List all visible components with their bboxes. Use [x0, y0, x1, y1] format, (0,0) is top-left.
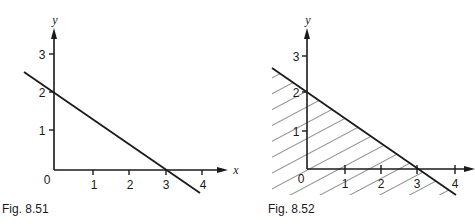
x-tick-label: 3: [163, 178, 170, 192]
x-tick-label: 2: [127, 178, 134, 192]
origin-label: 0: [44, 173, 51, 187]
x-axis-label: x: [232, 163, 239, 177]
figure-caption: Fig. 8.51: [2, 202, 49, 216]
y-tick-label: 3: [293, 50, 300, 64]
y-axis-label: y: [304, 13, 311, 27]
y-tick-label: 1: [39, 124, 46, 138]
figure-8-52: 1 2 3 4 3 2 1 0 y Fig. 8.52: [260, 13, 475, 216]
x-axis-arrow-icon: [217, 167, 228, 173]
y-tick-label: 3: [39, 48, 46, 62]
x-tick-label: 3: [414, 177, 421, 191]
figures-canvas: 1 2 3 4 3 2 1 0 y x Fig. 8.51: [0, 0, 475, 224]
figure-caption: Fig. 8.52: [268, 202, 315, 216]
x-tick-label: 4: [200, 178, 207, 192]
x-tick-label: 1: [342, 177, 349, 191]
figure-8-51: 1 2 3 4 3 2 1 0 y x Fig. 8.51: [2, 13, 239, 216]
y-tick-label: 1: [293, 125, 300, 139]
y-tick-label: 2: [293, 86, 300, 100]
origin-label: 0: [298, 172, 305, 186]
y-axis-arrow-icon: [304, 28, 310, 39]
x-tick-label: 1: [91, 178, 98, 192]
y-axis-label: y: [51, 13, 58, 27]
y-tick-label: 2: [39, 86, 46, 100]
boundary-line: [24, 72, 200, 193]
x-axis-arrow-icon: [464, 166, 475, 172]
x-tick-label: 4: [452, 177, 459, 191]
x-tick-label: 2: [378, 177, 385, 191]
y-axis-arrow-icon: [51, 28, 57, 39]
